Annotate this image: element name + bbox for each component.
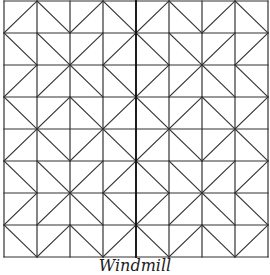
diagonal-line (70, 33, 103, 65)
diagonal-line (235, 129, 268, 161)
diagonal-line (136, 193, 169, 225)
diagonal-line (235, 1, 268, 33)
diagonal-line (202, 161, 235, 193)
diagonal-line (235, 161, 268, 193)
diagonal-line (4, 65, 37, 97)
diagonal-line (136, 65, 169, 97)
diagonal-line (169, 193, 202, 225)
diagonal-line (4, 1, 37, 33)
diagonal-line (235, 33, 268, 65)
diagonal-line (235, 97, 268, 129)
diagonal-line (202, 65, 235, 97)
diagonal-line (136, 225, 169, 257)
diagonal-line (37, 65, 70, 97)
diagonal-line (235, 225, 268, 257)
diagonal-line (37, 161, 70, 193)
diagonal-line (70, 97, 103, 129)
diagonal-line (4, 161, 37, 193)
diagonal-line (202, 33, 235, 65)
diagonal-line (103, 65, 136, 97)
diagonal-line (169, 65, 202, 97)
diagonal-line (4, 33, 37, 65)
diagonal-line (37, 33, 70, 65)
diagonal-line (202, 225, 235, 257)
diagonal-line (37, 225, 70, 257)
diagonal-line (103, 161, 136, 193)
diagonal-line (103, 1, 136, 33)
diagonal-line (169, 161, 202, 193)
figure-caption: Windmill (0, 256, 270, 275)
diagonal-line (37, 193, 70, 225)
diagonal-line (235, 193, 268, 225)
diagonal-line (169, 97, 202, 129)
diagonal-line (136, 129, 169, 161)
diagonal-line (4, 193, 37, 225)
diagonal-line (37, 97, 70, 129)
diagonal-line (169, 225, 202, 257)
diagonal-line (4, 129, 37, 161)
diagonal-line (37, 1, 70, 33)
diagonal-line (70, 129, 103, 161)
diagonal-line (70, 193, 103, 225)
diagonal-line (202, 1, 235, 33)
diagonal-line (202, 129, 235, 161)
diagonal-line (235, 65, 268, 97)
diagonal-line (70, 161, 103, 193)
diagonal-line (169, 1, 202, 33)
diagonal-line (70, 1, 103, 33)
diagonal-line (103, 193, 136, 225)
diagonal-line (169, 33, 202, 65)
diagonal-line (37, 129, 70, 161)
diagonal-line (136, 97, 169, 129)
diagonal-line (4, 97, 37, 129)
diagonal-line (202, 97, 235, 129)
diagonal-line (136, 1, 169, 33)
diagonal-line (103, 33, 136, 65)
diagonal-line (169, 129, 202, 161)
diagonal-line (136, 161, 169, 193)
diagonal-line (103, 129, 136, 161)
diagonal-line (70, 65, 103, 97)
diagonal-line (136, 33, 169, 65)
diagonal-line (4, 225, 37, 257)
diagonal-line (70, 225, 103, 257)
diagonal-line (103, 225, 136, 257)
diagonal-line (103, 97, 136, 129)
diagonal-line (202, 193, 235, 225)
